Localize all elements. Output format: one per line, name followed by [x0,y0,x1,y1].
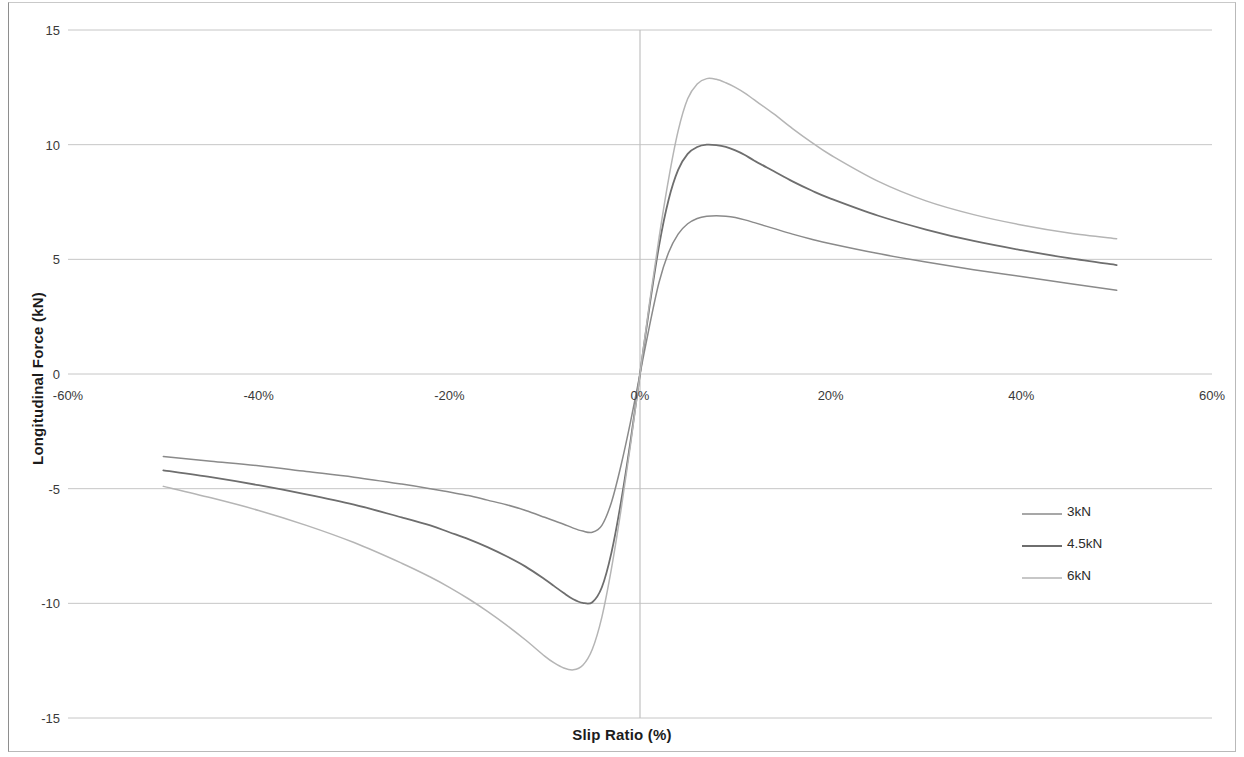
chart-canvas [0,0,1244,757]
x-tick-label: 40% [1008,388,1034,403]
legend-label-3kN: 3kN [1067,504,1091,519]
line-chart [0,0,1244,757]
y-tick-label: -10 [4,596,60,611]
y-tick-label: 15 [4,23,60,38]
x-tick-label: -60% [53,388,83,403]
y-tick-label: 0 [4,367,60,382]
y-tick-label: -5 [4,481,60,496]
legend-label-4-5kN: 4.5kN [1067,536,1102,551]
x-tick-label: 20% [818,388,844,403]
x-axis-title: Slip Ratio (%) [0,726,1244,743]
x-tick-label: -20% [434,388,464,403]
legend-label-6kN: 6kN [1067,568,1091,583]
y-tick-label: -15 [4,711,60,726]
chart-page: Longitudinal Force (kN) Slip Ratio (%) -… [0,0,1244,757]
x-tick-label: 0% [631,388,650,403]
legend-swatch-3kN [1022,509,1062,519]
x-tick-label: -40% [243,388,273,403]
legend-swatch-6kN [1022,573,1062,583]
x-tick-label: 60% [1199,388,1225,403]
legend-swatch-4-5kN [1022,541,1062,551]
y-tick-label: 10 [4,137,60,152]
y-tick-label: 5 [4,252,60,267]
